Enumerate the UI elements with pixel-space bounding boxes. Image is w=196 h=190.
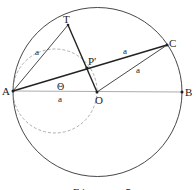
label-PC-length: a [123, 46, 127, 56]
label-AT-length: a [35, 47, 39, 57]
label-AO-length: a [58, 94, 62, 104]
label-T: T [63, 13, 70, 25]
point-A [12, 90, 15, 93]
geometry-diagram: A B O T C P′ a a a a Θ Figure 5 [0, 0, 196, 190]
label-B: B [185, 86, 192, 98]
label-angle-theta: Θ [57, 81, 64, 92]
label-C: C [169, 37, 176, 49]
point-B [181, 91, 184, 94]
segment-OC [97, 45, 167, 92]
label-OC-length: a [136, 65, 140, 75]
label-P: P′ [88, 55, 97, 67]
label-O: O [95, 94, 103, 106]
label-A: A [2, 85, 10, 97]
figure-caption: Figure 5 [73, 186, 134, 190]
